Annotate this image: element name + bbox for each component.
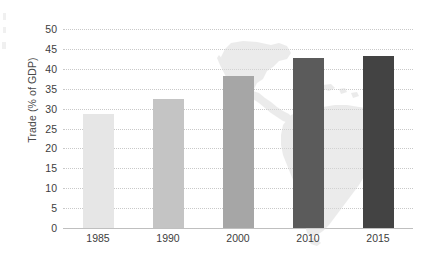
bar	[153, 99, 184, 228]
bar	[293, 58, 324, 228]
gridline	[63, 69, 413, 70]
scan-artifact-icon	[3, 27, 6, 33]
gridline	[63, 228, 413, 229]
y-axis-tick-label: 45	[33, 44, 57, 55]
y-axis-tick-label: 50	[33, 24, 57, 35]
y-axis-tick-label: 15	[33, 163, 57, 174]
scan-artifact-icon	[3, 13, 6, 20]
x-axis-tick-label: 2010	[296, 232, 319, 244]
y-axis-tick-label: 30	[33, 103, 57, 114]
y-axis-tick-labels: 05101520253035404550	[33, 29, 57, 228]
y-axis-tick-label: 20	[33, 143, 57, 154]
scan-artifact-icon	[2, 42, 6, 49]
plot-area	[63, 29, 413, 228]
bar-chart: Trade (% of GDP) 05101520253035404550	[0, 0, 427, 266]
x-axis-tick-labels: 19851990200020102015	[63, 232, 413, 252]
y-axis-tick-label: 10	[33, 183, 57, 194]
x-axis-tick-label: 2015	[366, 232, 389, 244]
y-axis-tick-label: 25	[33, 123, 57, 134]
x-axis-tick-label: 2000	[226, 232, 249, 244]
bar	[363, 56, 394, 228]
y-axis-tick-label: 5	[33, 203, 57, 214]
x-axis-tick-label: 1985	[86, 232, 109, 244]
y-axis-tick-label: 40	[33, 64, 57, 75]
bar	[223, 76, 254, 228]
gridline	[63, 29, 413, 30]
y-axis-tick-label: 35	[33, 83, 57, 94]
gridline	[63, 49, 413, 50]
x-axis-tick-label: 1990	[156, 232, 179, 244]
bar	[83, 114, 114, 228]
y-axis-tick-label: 0	[33, 223, 57, 234]
